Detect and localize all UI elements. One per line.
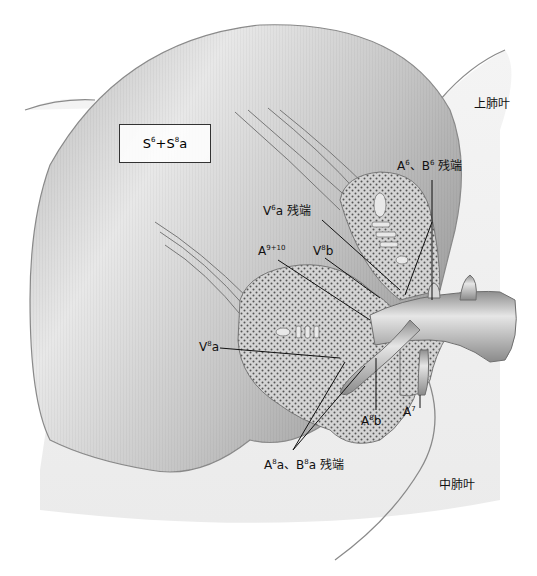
middle-lobe-label: 中肺叶 — [439, 479, 475, 491]
upper-lobe-label: 上肺叶 — [474, 98, 510, 110]
lung-segmentectomy-illustration: S6+S8a 上肺叶 中肺叶 A6、B6 残端 V6a 残端 A9+10 V8b… — [0, 0, 537, 576]
label-v6a-stump: V6a 残端 — [263, 205, 311, 217]
label-a9-10: A9+10 — [258, 245, 285, 257]
label-v8a: V8a — [199, 341, 219, 353]
label-a7: A7 — [403, 406, 416, 418]
label-a8a-b8a-stump: A8a、B8a 残端 — [264, 459, 344, 471]
segment-label-box: S6+S8a — [119, 124, 211, 163]
label-v8b: V8b — [313, 245, 333, 257]
segment-label: S6+S8a — [143, 136, 187, 151]
label-a8b: A8b — [361, 415, 381, 427]
label-a6-b6-stump: A6、B6 残端 — [397, 160, 462, 172]
a7-branch — [418, 350, 429, 395]
